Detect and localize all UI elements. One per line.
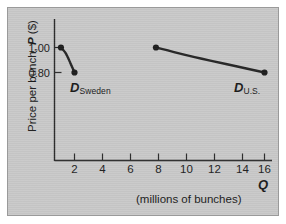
x-tick-label-16: 16 [252,164,277,176]
x-axis-symbol: Q [258,178,268,191]
annotation-demand-sweden: DSweden [70,81,111,95]
x-tick-label-12: 12 [202,164,227,176]
x-tick-label-8: 8 [146,164,171,176]
data-point [71,69,77,75]
annotation-sweden-subscript: Sweden [79,86,110,96]
annotation-us-subscript: U.S. [243,86,260,96]
y-tick-label-0.80: 0.80 [16,68,50,79]
data-point [261,69,267,75]
x-axis-caption: (millions of bunches) [136,194,241,206]
annotation-demand-us: DU.S. [234,81,260,95]
plot-area [8,8,279,216]
y-axis-label-unit: ($) [26,20,38,34]
x-tick-label-4: 4 [90,164,115,176]
annotation-sweden-symbol: D [70,80,79,95]
x-tick-label-10: 10 [174,164,199,176]
y-axis-label-text: Price per bunch, [26,48,38,132]
chart-plate: Price per bunch, P ($) 1.00 0.80 2 4 6 8… [7,7,279,216]
y-tick-label-1.00: 1.00 [16,43,50,54]
x-tick-label-6: 6 [118,164,143,176]
data-point [58,44,64,50]
x-tick-label-2: 2 [62,164,87,176]
demand-curve-us [156,48,265,73]
chart-figure: Price per bunch, P ($) 1.00 0.80 2 4 6 8… [0,0,286,224]
demand-curve-sweden [61,48,75,73]
annotation-us-symbol: D [234,80,243,95]
data-point [153,44,159,50]
